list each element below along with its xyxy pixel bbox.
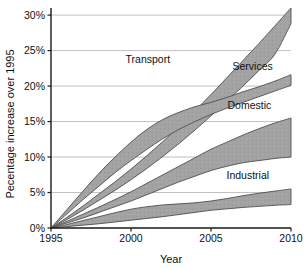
series-label-domestic: Domestic (228, 99, 272, 111)
y-tick-label-25: 25% (24, 44, 45, 56)
chart-container: 0%5%10%15%20%25%30%1995200020052010 Tran… (0, 0, 308, 268)
y-tick-label-20: 20% (24, 80, 45, 92)
x-tick-label-1995: 1995 (39, 232, 63, 244)
x-tick-label-2005: 2005 (199, 232, 223, 244)
x-tick-label-2010: 2010 (279, 232, 303, 244)
x-tick-label-2000: 2000 (119, 232, 143, 244)
y-tick-label-5: 5% (30, 186, 45, 198)
y-tick-label-30: 30% (24, 9, 45, 21)
y-axis-title: Pecentage increase over 1995 (4, 49, 16, 198)
series-label-services: Services (232, 60, 272, 72)
series-label-industrial: Industrial (226, 169, 269, 181)
line-area-chart: 0%5%10%15%20%25%30%1995200020052010 Tran… (0, 0, 308, 268)
x-axis-title: Year (160, 253, 183, 265)
y-tick-label-10: 10% (24, 151, 45, 163)
series-label-transport: Transport (126, 53, 171, 65)
y-tick-label-15: 15% (24, 115, 45, 127)
